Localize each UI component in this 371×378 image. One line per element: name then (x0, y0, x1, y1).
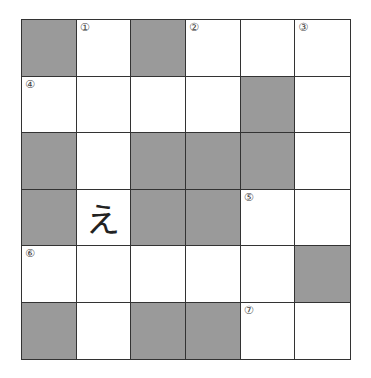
crossword-cell[interactable] (241, 20, 296, 77)
clue-number: ② (189, 22, 199, 33)
crossword-block-cell (22, 303, 77, 360)
crossword-cell[interactable]: ② (186, 20, 241, 77)
crossword-block-cell (22, 20, 77, 77)
crossword-cell[interactable]: ④ (22, 77, 77, 134)
clue-number: ③ (298, 22, 308, 33)
clue-number: ⑥ (25, 248, 35, 259)
crossword-cell[interactable] (295, 133, 350, 190)
crossword-block-cell (186, 303, 241, 360)
crossword-cell[interactable]: ① (77, 20, 132, 77)
clue-number: ⑦ (244, 305, 254, 316)
crossword-cell[interactable] (77, 77, 132, 134)
crossword-block-cell (22, 190, 77, 247)
crossword-block-cell (186, 190, 241, 247)
crossword-cell[interactable]: え (77, 190, 132, 247)
crossword-cell[interactable] (77, 303, 132, 360)
crossword-cell[interactable]: ⑤ (241, 190, 296, 247)
crossword-block-cell (131, 303, 186, 360)
clue-number: ⑤ (244, 192, 254, 203)
crossword-block-cell (241, 133, 296, 190)
crossword-cell[interactable]: ③ (295, 20, 350, 77)
crossword-cell[interactable] (295, 303, 350, 360)
crossword-cell[interactable] (77, 246, 132, 303)
crossword-block-cell (131, 20, 186, 77)
crossword-cell[interactable] (186, 246, 241, 303)
crossword-grid: ①②③④え⑤⑥⑦ (21, 19, 351, 360)
crossword-cell[interactable] (241, 246, 296, 303)
clue-number: ④ (25, 79, 35, 90)
crossword-cell[interactable] (131, 246, 186, 303)
crossword-cell[interactable] (295, 77, 350, 134)
crossword-block-cell (131, 190, 186, 247)
crossword-block-cell (295, 246, 350, 303)
crossword-cell[interactable]: ⑥ (22, 246, 77, 303)
crossword-cell[interactable] (131, 77, 186, 134)
crossword-block-cell (131, 133, 186, 190)
clue-number: ① (80, 22, 90, 33)
crossword-block-cell (241, 77, 296, 134)
cell-letter: え (77, 190, 131, 246)
crossword-block-cell (22, 133, 77, 190)
crossword-cell[interactable] (295, 190, 350, 247)
crossword-cell[interactable] (186, 77, 241, 134)
crossword-cell[interactable] (77, 133, 132, 190)
crossword-cell[interactable]: ⑦ (241, 303, 296, 360)
crossword-block-cell (186, 133, 241, 190)
